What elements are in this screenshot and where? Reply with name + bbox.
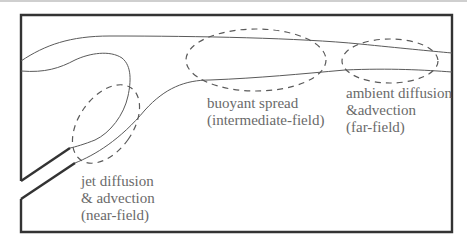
far-field-label-line-3: (far-field) <box>346 119 452 136</box>
discharge-pipe <box>21 148 75 199</box>
intermediate-field-label-line-2: (intermediate-field) <box>207 112 324 129</box>
far-field-region <box>342 39 438 83</box>
near-field-label-line-2: & advection <box>81 190 155 207</box>
near-field-label-line-1: jet diffusion <box>81 173 155 190</box>
far-field-label-line-2: &advection <box>346 102 452 119</box>
intermediate-field-label: buoyant spread (intermediate-field) <box>207 95 324 129</box>
near-field-region <box>59 72 154 175</box>
far-field-label-line-1: ambient diffusion <box>346 85 452 102</box>
intermediate-field-label-line-1: buoyant spread <box>207 95 324 112</box>
near-field-label-line-3: (near-field) <box>81 207 155 224</box>
far-field-label: ambient diffusion &advection (far-field) <box>346 85 452 136</box>
near-field-label: jet diffusion & advection (near-field) <box>81 173 155 224</box>
